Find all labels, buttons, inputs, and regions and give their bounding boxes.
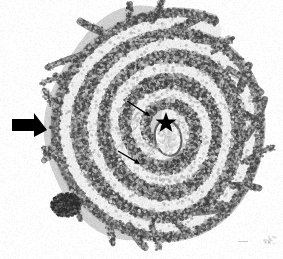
micrograph-figure (0, 0, 283, 259)
